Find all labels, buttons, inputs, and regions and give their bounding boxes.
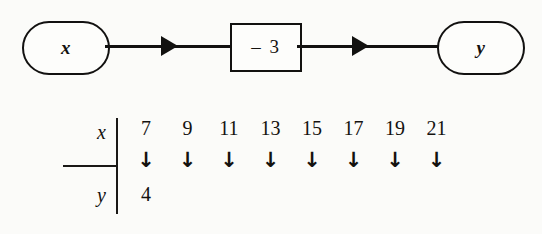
output-variable-label: y [477, 38, 486, 57]
table-cell-x: 9 [168, 118, 208, 138]
table-cell-x: 19 [375, 118, 415, 138]
input-node-oval: x [22, 21, 110, 75]
function-machine-flow: x – 3 y [0, 0, 542, 100]
table-cell-y: 4 [126, 184, 166, 204]
right-arrowhead-icon [161, 36, 178, 56]
operation-node-box: – 3 [230, 23, 302, 72]
down-arrow-icon: ↓ [209, 150, 249, 171]
right-arrowhead-icon [352, 36, 369, 56]
table-cell-x: 21 [417, 118, 457, 138]
value-table: x y 7↓49↓11↓13↓15↓17↓19↓21↓ [0, 100, 542, 234]
table-row-label-x: x [66, 122, 106, 142]
output-node-oval: y [437, 21, 525, 75]
down-arrow-icon: ↓ [417, 150, 457, 171]
table-horizontal-rule [63, 165, 117, 167]
table-cell-x: 13 [251, 118, 291, 138]
figure-canvas: x – 3 y x y 7↓49↓11↓13↓15↓17↓19↓21↓ [0, 0, 542, 234]
down-arrow-icon: ↓ [168, 150, 208, 171]
input-variable-label: x [61, 38, 71, 57]
table-row-label-y: y [66, 185, 106, 205]
table-cell-x: 7 [126, 118, 166, 138]
table-cell-x: 15 [292, 118, 332, 138]
operation-label: – 3 [251, 37, 281, 56]
table-cell-x: 17 [334, 118, 374, 138]
table-columns: 7↓49↓11↓13↓15↓17↓19↓21↓ [126, 100, 530, 234]
down-arrow-icon: ↓ [292, 150, 332, 171]
down-arrow-icon: ↓ [375, 150, 415, 171]
down-arrow-icon: ↓ [251, 150, 291, 171]
down-arrow-icon: ↓ [126, 150, 166, 171]
down-arrow-icon: ↓ [334, 150, 374, 171]
table-cell-x: 11 [209, 118, 249, 138]
